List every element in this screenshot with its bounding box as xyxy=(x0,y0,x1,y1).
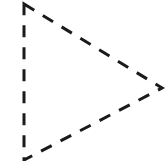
dashed-triangle-outline xyxy=(24,4,162,160)
dashed-triangle-diagram xyxy=(0,0,168,161)
